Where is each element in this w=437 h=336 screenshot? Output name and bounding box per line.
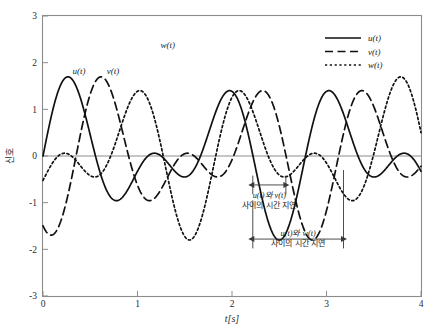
curve-label-wt: w(t) — [160, 40, 175, 50]
curve-label-vt: v(t) — [107, 66, 120, 76]
legend-label-ut[interactable]: u(t) — [368, 33, 381, 43]
y-tick-label: -1 — [29, 198, 37, 208]
x-axis-title: t[s] — [225, 313, 240, 324]
annotation-line-1: u(t)와 w(t) — [281, 229, 316, 238]
curve-wt — [43, 77, 421, 240]
legend-label-wt[interactable]: w(t) — [368, 60, 383, 70]
curve-ut — [43, 77, 421, 240]
data-curves — [43, 77, 421, 240]
curve-labels: u(t)v(t)w(t) — [72, 40, 175, 77]
annotation-line-1: u(t)와 v(t) — [253, 191, 287, 200]
y-tick-label: 0 — [32, 151, 37, 161]
curve-label-ut: u(t) — [72, 66, 85, 76]
signal-delay-line-chart: -3-2-10123 01234 u(t)v(t)w(t) u(t)와 v(t)… — [0, 0, 437, 336]
x-tick-label: 3 — [324, 299, 329, 309]
y-tick-label: -2 — [29, 245, 37, 255]
x-tick-label: 2 — [230, 299, 235, 309]
x-tick-label: 4 — [419, 299, 424, 309]
delay-annotations: u(t)와 v(t)사이의 시간 지연u(t)와 w(t)사이의 시간 지연 — [242, 170, 343, 248]
curve-vt — [43, 77, 421, 240]
y-axis-ticks: -3-2-10123 — [29, 11, 48, 301]
annotation-line-2: 사이의 시간 지연 — [242, 200, 296, 210]
x-tick-label: 1 — [135, 299, 140, 309]
chart-legend[interactable]: u(t)v(t)w(t) — [325, 33, 383, 70]
legend-label-vt[interactable]: v(t) — [368, 47, 381, 57]
y-axis-title: 신호 — [5, 148, 15, 164]
y-tick-label: 2 — [32, 58, 37, 68]
chart-figure: -3-2-10123 01234 u(t)v(t)w(t) u(t)와 v(t)… — [0, 0, 437, 336]
y-tick-label: -3 — [29, 291, 37, 301]
y-tick-label: 1 — [32, 105, 37, 115]
x-axis-ticks: 01234 — [41, 291, 424, 309]
annotation-line-2: 사이의 시간 지연 — [271, 238, 325, 248]
y-tick-label: 3 — [32, 11, 37, 21]
x-tick-label: 0 — [41, 299, 46, 309]
